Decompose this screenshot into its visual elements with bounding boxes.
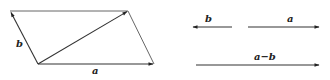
label-a-minus-b: a−b [254,51,276,62]
label-b: b [16,38,23,49]
label-b-right: b [205,13,212,24]
label-a-right: a [287,13,293,24]
right-edge [128,11,154,64]
vector-diagram: b a b a a−b [0,0,330,80]
diagonal-arrow [38,12,127,64]
difference-figure: b a a−b [193,13,319,65]
parallelogram-figure: b a [10,11,154,76]
label-a: a [92,65,98,76]
